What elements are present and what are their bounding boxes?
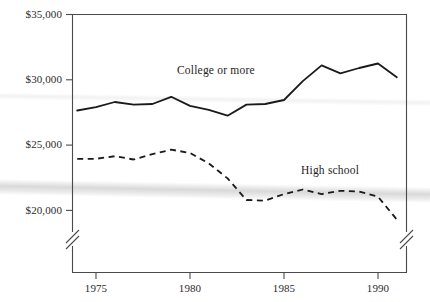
y-axis-label-30000: $30,000 xyxy=(0,73,62,85)
x-axis-label-1990: 1990 xyxy=(353,282,403,294)
series-line-highschool xyxy=(77,150,397,220)
x-axis-label-1985: 1985 xyxy=(259,282,309,294)
x-axis-label-1975: 1975 xyxy=(71,282,121,294)
y-axis-label-20000: $20,000 xyxy=(0,204,62,216)
y-axis-label-35000: $35,000 xyxy=(0,8,62,20)
x-axis-label-1980: 1980 xyxy=(165,282,215,294)
x-tick-marks xyxy=(96,273,378,280)
axis-frame xyxy=(72,15,407,273)
axis-break-marks xyxy=(66,230,413,249)
y-tick-marks xyxy=(66,15,72,211)
y-axis-label-25000: $25,000 xyxy=(0,138,62,150)
series-annotation-highschool: High school xyxy=(301,164,359,176)
line-chart-plot xyxy=(0,0,430,302)
chart-figure: $35,000 $30,000 $25,000 $20,000 1975 198… xyxy=(0,0,430,302)
series-annotation-college: College or more xyxy=(177,64,255,76)
